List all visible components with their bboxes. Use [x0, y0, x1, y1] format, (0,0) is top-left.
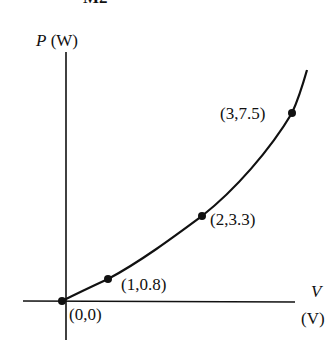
y-axis-variable: P	[36, 31, 46, 50]
power-curve	[62, 70, 307, 301]
point-label-2: (2,3.3)	[210, 211, 255, 228]
point-label-3: (3,7.5)	[220, 105, 265, 122]
x-axis-unit: (V)	[301, 310, 325, 327]
y-axis-unit: (W)	[51, 31, 78, 50]
data-point-3	[288, 109, 296, 117]
x-axis-variable: V	[311, 283, 321, 300]
y-axis-label: P (W)	[36, 32, 78, 49]
data-point-0	[58, 297, 66, 305]
power-voltage-chart	[0, 0, 333, 354]
data-point-2	[198, 212, 206, 220]
data-point-1	[104, 275, 112, 283]
point-label-0: (0,0)	[69, 306, 102, 323]
point-label-1: (1,0.8)	[121, 276, 166, 293]
